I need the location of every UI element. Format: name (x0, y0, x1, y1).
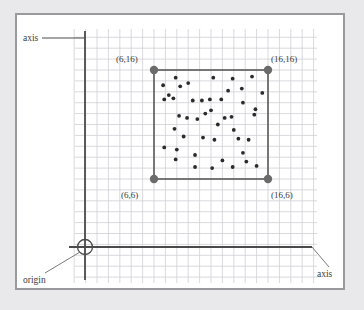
scatter-point (203, 112, 207, 116)
corner-dot-bottom-left (150, 175, 158, 183)
scatter-point (240, 87, 244, 91)
scatter-point (185, 116, 189, 120)
scatter-point (244, 160, 248, 164)
corner-dot-top-left (150, 66, 158, 74)
scatter-point (174, 157, 178, 161)
scatter-point (193, 153, 197, 157)
scatter-point (250, 75, 254, 79)
corner-dot-top-right (264, 66, 272, 74)
label-axis-horizontal: axis (317, 269, 333, 279)
label-axis-vertical: axis (23, 33, 39, 43)
label-corner-top-left: (6,16) (116, 54, 138, 64)
axes-group (69, 31, 312, 280)
scatter-point (200, 99, 204, 103)
label-corner-bottom-left: (6,6) (121, 190, 138, 200)
scatter-point (211, 76, 215, 80)
scatter-point (178, 84, 182, 88)
scatter-point (247, 138, 251, 142)
scatter-point (241, 151, 245, 155)
scatter-point (209, 108, 213, 112)
scatter-point (171, 96, 175, 100)
scatter-point (167, 93, 171, 97)
scatter-point (174, 76, 178, 80)
scatter-point (241, 101, 245, 105)
scatter-point (216, 123, 220, 127)
corner-dot-bottom-right (264, 175, 272, 183)
scatter-point (230, 115, 234, 119)
scatter-point (213, 138, 217, 142)
figure-stage: axis origin axis (6,16) (16,16) (6,6) (1… (17, 15, 343, 288)
label-origin: origin (23, 275, 46, 285)
scatter-point (193, 165, 197, 169)
scatter-point (236, 137, 240, 141)
scatter-point (226, 89, 230, 93)
scatter-point (260, 91, 264, 95)
scatter-point (221, 159, 225, 163)
scatter-point (182, 135, 186, 139)
scatter-point (195, 117, 199, 121)
scatter-point (254, 107, 258, 111)
label-corner-top-right: (16,16) (271, 54, 297, 64)
scatter-point (177, 114, 181, 118)
scatter-point (191, 99, 195, 103)
scatter-point (175, 148, 179, 152)
scatter-point (186, 81, 190, 85)
scatter-point (210, 166, 214, 170)
scatter-point (231, 165, 235, 169)
scatter-point (232, 128, 236, 132)
scatter-point (255, 164, 259, 168)
label-corner-bottom-right: (16,6) (271, 190, 293, 200)
axis-horizontal-leader (312, 247, 329, 267)
scatter-plot-svg: axis origin axis (6,16) (16,16) (6,6) (1… (17, 15, 343, 288)
scatter-point (223, 116, 227, 120)
scatter-point (208, 98, 212, 102)
scatter-point (231, 77, 235, 81)
figure-frame: axis origin axis (6,16) (16,16) (6,6) (1… (15, 13, 345, 290)
scatter-point (173, 127, 177, 131)
origin-leader (45, 252, 80, 273)
scatter-point (219, 98, 223, 102)
scatter-point (252, 113, 256, 117)
scatter-point (162, 145, 166, 149)
scatter-point (161, 83, 165, 87)
scatter-point (162, 98, 166, 102)
scatter-point (201, 136, 205, 140)
